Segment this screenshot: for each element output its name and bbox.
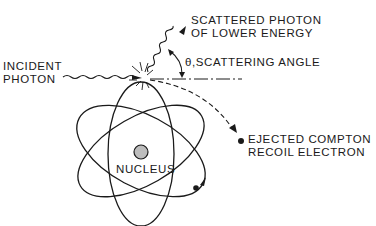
recoil-electron-label-line1: EJECTED COMPTON: [248, 133, 371, 146]
incident-arrow-icon: [132, 75, 142, 80]
scattering-angle-arc: [170, 51, 182, 74]
scattered-photon-label: SCATTERED PHOTON OF LOWER ENERGY: [191, 14, 322, 40]
recoil-electron-label-line2: RECOIL ELECTRON: [248, 146, 371, 159]
incident-photon-label-line1: INCIDENT: [3, 60, 62, 73]
recoil-electron-path: [150, 80, 232, 128]
scattered-photon-label-line1: SCATTERED PHOTON: [191, 14, 322, 27]
angle-arrow-bottom-icon: [179, 72, 185, 78]
incident-photon-label-line2: PHOTON: [3, 73, 62, 86]
scattering-angle-label: θ,SCATTERING ANGLE: [185, 56, 320, 69]
nucleus-icon: [134, 145, 148, 159]
nucleus-label: NUCLEUS: [116, 163, 175, 176]
recoil-electron-label: EJECTED COMPTON RECOIL ELECTRON: [248, 133, 371, 159]
incident-photon-label: INCIDENT PHOTON: [3, 60, 62, 86]
ejected-electron-dot: [238, 138, 244, 144]
scattered-arrow-icon: [179, 26, 186, 35]
orbital-electron-dot: [193, 185, 199, 191]
incident-photon-wave: [63, 76, 138, 79]
scattered-photon-label-line2: OF LOWER ENERGY: [191, 27, 322, 40]
scattered-photon-wave: [147, 26, 173, 72]
recoil-arrow-icon: [229, 124, 237, 133]
orbital-direction-arrow-icon: [200, 177, 206, 186]
angle-arrow-top-icon: [168, 49, 174, 56]
